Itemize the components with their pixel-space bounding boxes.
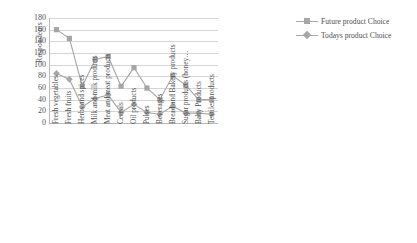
y-tick-label: 120 bbox=[34, 49, 46, 57]
line-chart: Respondents 180160140120100806040200 Fre… bbox=[0, 0, 417, 243]
y-tick-label: 160 bbox=[34, 26, 46, 34]
x-tick-label: Cereals bbox=[117, 6, 125, 124]
y-axis-tick-labels: 180160140120100806040200 bbox=[20, 14, 46, 124]
legend-label: Future product Choice bbox=[321, 17, 389, 26]
y-tick-label: 40 bbox=[38, 96, 46, 104]
legend-square-icon bbox=[296, 16, 318, 26]
y-tick-label: 140 bbox=[34, 37, 46, 45]
legend-item-1[interactable]: Future product Choice bbox=[296, 14, 391, 28]
x-tick-label: Sugar products (honey… bbox=[182, 6, 190, 124]
x-tick-label: Beverages bbox=[156, 6, 164, 124]
x-tick-label: Oil products bbox=[130, 6, 138, 124]
x-tick-label: Pulses bbox=[143, 6, 151, 124]
x-tick-label: Baby Products bbox=[195, 6, 203, 124]
y-tick-label: 20 bbox=[38, 107, 46, 115]
legend-item-2[interactable]: Todays product Choice bbox=[296, 28, 391, 42]
x-tick-label: Meat and meat products bbox=[104, 6, 112, 124]
x-tick-label: Fresh vegetables bbox=[52, 6, 60, 124]
y-tick-label: 80 bbox=[38, 72, 46, 80]
x-tick-label: Bread and Bakery products bbox=[169, 6, 177, 124]
y-tick-label: 0 bbox=[42, 119, 46, 127]
chart-legend: Future product ChoiceTodays product Choi… bbox=[296, 14, 391, 42]
y-tick-label: 60 bbox=[38, 84, 46, 92]
x-tick-label-slot: Textiles products bbox=[208, 124, 326, 136]
legend-label: Todays product Choice bbox=[321, 31, 391, 40]
x-tick-label: Milk and milk products bbox=[91, 6, 99, 124]
y-tick-label: 100 bbox=[34, 61, 46, 69]
y-tick-label: 180 bbox=[34, 14, 46, 22]
x-axis-tick-labels: Fresh vegetablesFresh fruitsHerbs and sp… bbox=[49, 124, 217, 242]
legend-diamond-icon bbox=[296, 30, 318, 40]
x-tick-label: Fresh fruits bbox=[65, 6, 73, 124]
x-tick-label: Herbs and spices bbox=[78, 6, 86, 124]
x-tick-label: Textiles products bbox=[208, 6, 216, 124]
